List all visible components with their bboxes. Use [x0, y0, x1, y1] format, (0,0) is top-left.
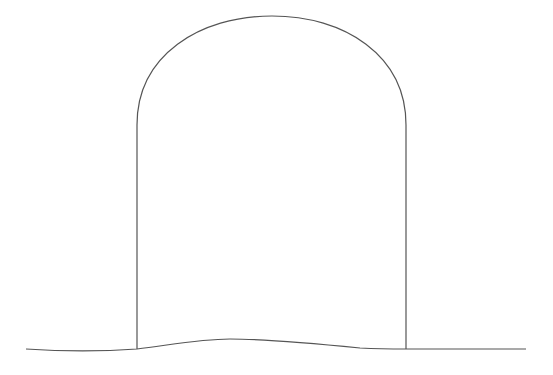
ground-line	[26, 339, 526, 351]
arch-outline	[137, 16, 406, 349]
drawing-canvas	[0, 0, 553, 375]
arch-drawing	[0, 0, 553, 375]
